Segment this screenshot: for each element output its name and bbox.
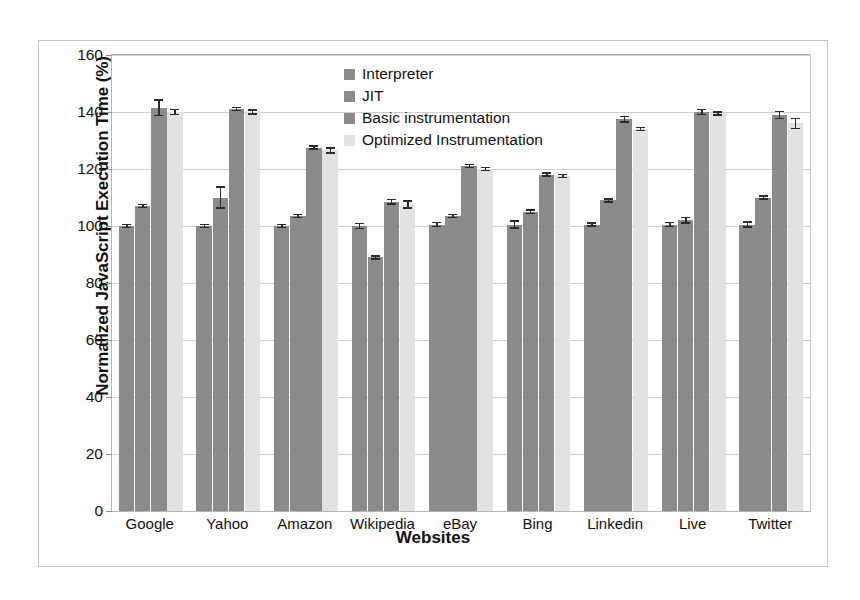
bar bbox=[384, 202, 400, 511]
error-bar-cap bbox=[138, 204, 147, 206]
error-bar-cap bbox=[697, 109, 706, 111]
error-bar-cap bbox=[587, 222, 596, 224]
bar bbox=[507, 225, 523, 511]
bar-group bbox=[655, 55, 733, 511]
error-bar-cap bbox=[791, 118, 800, 120]
legend-swatch-icon bbox=[344, 135, 355, 146]
bar bbox=[772, 115, 788, 511]
bar bbox=[523, 212, 539, 511]
error-bar-cap bbox=[154, 99, 163, 101]
bar bbox=[584, 225, 600, 511]
bar bbox=[119, 226, 135, 511]
y-axis-tick-label: 0 bbox=[94, 502, 103, 520]
bar-group bbox=[112, 55, 190, 511]
bar bbox=[368, 257, 384, 511]
bar bbox=[555, 176, 571, 511]
legend-label: Optimized Instrumentation bbox=[362, 131, 543, 149]
bar bbox=[151, 108, 167, 511]
legend-label: Basic instrumentation bbox=[362, 109, 510, 127]
bar bbox=[461, 166, 477, 511]
legend-entry: JIT bbox=[344, 86, 543, 106]
bar bbox=[245, 112, 261, 511]
x-axis-tick-label: Linkedin bbox=[587, 515, 643, 532]
error-bar-cap bbox=[465, 164, 474, 166]
legend-swatch-icon bbox=[344, 91, 355, 102]
y-axis-tick-label: 20 bbox=[86, 445, 103, 463]
legend-swatch-icon bbox=[344, 69, 355, 80]
bar bbox=[429, 225, 445, 511]
bar bbox=[710, 113, 726, 511]
x-axis-tick-label: Live bbox=[679, 515, 707, 532]
bar bbox=[306, 148, 322, 511]
error-bar-cap bbox=[326, 147, 335, 149]
legend-label: Interpreter bbox=[362, 65, 434, 83]
bar-group bbox=[577, 55, 655, 511]
error-bar-cap bbox=[558, 174, 567, 176]
error-bar-cap bbox=[620, 116, 629, 118]
bar bbox=[662, 225, 678, 511]
legend-entry: Interpreter bbox=[344, 64, 543, 84]
x-axis-tick-labels: GoogleYahooAmazonWikipediaeBayBingLinked… bbox=[111, 515, 811, 539]
legend-swatch-icon bbox=[344, 113, 355, 124]
x-axis-tick-label: Bing bbox=[523, 515, 553, 532]
y-axis-tick-label: 40 bbox=[86, 388, 103, 406]
bar bbox=[445, 216, 461, 511]
error-bar-cap bbox=[636, 127, 645, 129]
bar bbox=[290, 216, 306, 511]
chart-legend: InterpreterJITBasic instrumentationOptim… bbox=[344, 64, 543, 150]
error-bar-cap bbox=[122, 224, 131, 226]
y-axis-tick-label: 160 bbox=[77, 46, 103, 64]
x-axis-tick-label: Google bbox=[126, 515, 174, 532]
error-bar-cap bbox=[293, 214, 302, 216]
bar bbox=[322, 150, 338, 511]
plot-area: 020406080100120140160 InterpreterJITBasi… bbox=[111, 54, 811, 512]
error-bar-cap bbox=[526, 209, 535, 211]
y-axis-tick-label: 80 bbox=[86, 274, 103, 292]
y-axis-tick-label: 100 bbox=[77, 217, 103, 235]
error-bar-cap bbox=[759, 195, 768, 197]
error-bar-cap bbox=[432, 222, 441, 224]
x-axis-tick-label: Yahoo bbox=[206, 515, 248, 532]
bar bbox=[274, 226, 290, 511]
bar bbox=[352, 226, 368, 511]
bar bbox=[213, 198, 229, 512]
legend-entry: Optimized Instrumentation bbox=[344, 130, 543, 150]
y-axis-tick-label: 60 bbox=[86, 331, 103, 349]
bar bbox=[400, 205, 416, 511]
error-bar-cap bbox=[309, 145, 318, 147]
bar bbox=[678, 220, 694, 511]
x-axis-tick-label: Wikipedia bbox=[350, 515, 415, 532]
error-bar-cap bbox=[681, 217, 690, 219]
bar bbox=[135, 206, 151, 511]
figure-frame: Normalized JavaScript Execution Time (%)… bbox=[38, 40, 828, 567]
error-bar-cap bbox=[448, 214, 457, 216]
bar bbox=[739, 225, 755, 511]
bar bbox=[477, 169, 493, 511]
bar-group bbox=[267, 55, 345, 511]
bar bbox=[633, 129, 649, 511]
error-bar-cap bbox=[371, 255, 380, 257]
error-bar-cap bbox=[387, 199, 396, 201]
x-axis-tick-label: Twitter bbox=[748, 515, 792, 532]
error-bar-cap bbox=[355, 223, 364, 225]
error-bar-cap bbox=[200, 224, 209, 226]
error-bar-cap bbox=[170, 109, 179, 111]
bar bbox=[229, 109, 245, 511]
error-bar-cap bbox=[277, 224, 286, 226]
error-bar-cap bbox=[604, 198, 613, 200]
legend-label: JIT bbox=[362, 87, 384, 105]
bar-group bbox=[732, 55, 810, 511]
x-axis-tick-label: Amazon bbox=[277, 515, 332, 532]
error-bar-cap bbox=[232, 107, 241, 109]
bar bbox=[616, 119, 632, 511]
x-axis-tick-label: eBay bbox=[443, 515, 477, 532]
legend-entry: Basic instrumentation bbox=[344, 108, 543, 128]
error-bar-cap bbox=[216, 186, 225, 188]
error-bar-cap bbox=[665, 222, 674, 224]
error-bar-cap bbox=[775, 111, 784, 113]
bar bbox=[167, 112, 183, 511]
bar bbox=[600, 200, 616, 511]
error-bar-cap bbox=[481, 167, 490, 169]
error-bar-cap bbox=[403, 200, 412, 202]
y-axis-tick-label: 140 bbox=[77, 103, 103, 121]
